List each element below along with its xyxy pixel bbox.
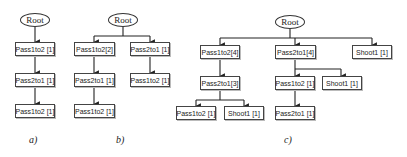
c-right-top-node: Shoot1 [1]: [352, 45, 392, 59]
caption-c: c): [284, 134, 292, 145]
caption-b: b): [116, 134, 124, 145]
c-middle-top-node: Pass2to1[4]: [275, 45, 316, 59]
a-node-3: Pass1to2 [1]: [15, 104, 55, 118]
c-left-top-node: Pass1to2[4]: [200, 45, 240, 59]
a-root-node: Root: [20, 13, 50, 27]
c-middle-child-2: Shoot1 [1]: [322, 76, 362, 90]
caption-a: a): [29, 134, 37, 145]
b-right-node-1: Pass2to1 [1]: [130, 42, 170, 56]
a-node-1: Pass1to2 [1]: [15, 42, 55, 56]
c-left-child-2: Shoot1 [1]: [224, 106, 264, 120]
b-left-node-2: Pass2to1 [1]: [74, 73, 115, 87]
a-node-2: Pass2to1 [1]: [15, 73, 55, 87]
c-middle-grandchild: Pass2to1 [1]: [275, 106, 315, 120]
c-left-child-1: Pass1to2 [1]: [176, 106, 216, 120]
b-left-node-3: Pass1to2 [1]: [74, 104, 115, 118]
b-right-node-2: Pass1to2 [1]: [130, 73, 170, 87]
b-root-node: Root: [108, 13, 138, 27]
c-left-mid-node: Pass2to1[3]: [200, 76, 240, 90]
c-root-node: Root: [275, 15, 305, 29]
b-left-node-1: Pass1to2[2]: [74, 42, 115, 56]
c-middle-child-1: Pass1to2 [1]: [275, 76, 315, 90]
